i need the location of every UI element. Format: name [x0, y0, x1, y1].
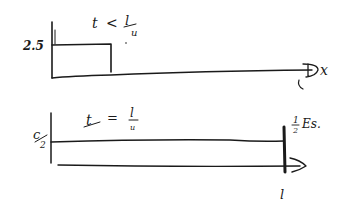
bottom-axis-arrow-icon	[290, 158, 306, 172]
bottom-end-note-num: 1	[293, 115, 299, 125]
bottom-axis-mark-label: l	[280, 187, 284, 202]
bottom-annotation-relation: =	[107, 110, 118, 125]
bottom-x-axis	[58, 165, 300, 166]
bottom-annotation: t = l u	[84, 106, 138, 132]
diagram-canvas: 2.5 x t < l u c 2	[0, 0, 345, 210]
top-annotation-relation: <	[106, 15, 118, 31]
bottom-end-note-text: Es.	[301, 117, 321, 131]
top-annotation-lhs: t	[92, 15, 98, 31]
top-stray-dot	[125, 42, 127, 44]
bottom-y-label-den: 2	[39, 140, 46, 150]
bottom-end-note: 1 2 Es.	[292, 115, 321, 135]
top-y-label: 2.5	[22, 39, 44, 53]
top-x-axis	[52, 70, 312, 78]
top-panel: 2.5 x t < l u	[22, 13, 328, 89]
top-pulse	[52, 44, 111, 72]
bottom-annotation-rhs-num: l	[130, 106, 134, 120]
top-l-mark	[299, 80, 304, 89]
top-axis-end-label: x	[320, 62, 328, 78]
bottom-annotation-rhs-den: u	[130, 123, 135, 132]
top-annotation: t < l u	[92, 13, 137, 38]
top-annotation-rhs-den: u	[131, 27, 137, 38]
bottom-panel: c 2 t = l u 1 2 E	[33, 106, 321, 202]
bottom-level-line	[51, 140, 284, 142]
bottom-end-note-den: 2	[292, 126, 298, 135]
bottom-end-bar	[284, 127, 285, 172]
